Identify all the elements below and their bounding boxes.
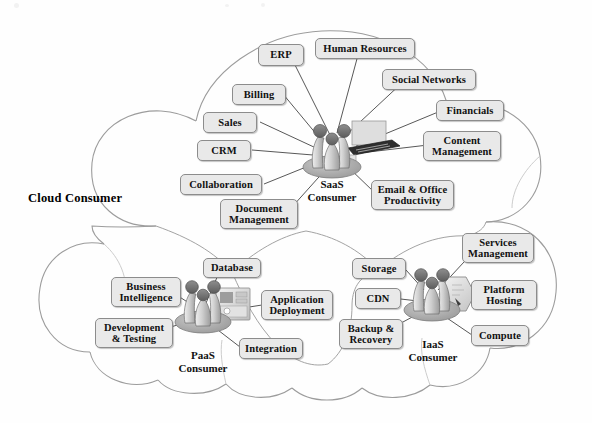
iaas-people-icon [404, 269, 475, 321]
node-crm[interactable]: CRM [197, 140, 251, 161]
node-compute[interactable]: Compute [471, 325, 529, 346]
node-database[interactable]: Database [203, 258, 261, 278]
node-application-deployment[interactable]: Application Deployment [261, 290, 333, 320]
node-email-office-productivity[interactable]: Email & Office Productivity [371, 180, 454, 210]
node-erp[interactable]: ERP [258, 44, 304, 66]
node-business-intelligence[interactable]: Business Intelligence [111, 277, 181, 307]
node-financials[interactable]: Financials [436, 100, 504, 121]
node-storage[interactable]: Storage [352, 258, 406, 279]
node-collaboration[interactable]: Collaboration [180, 174, 262, 195]
node-cdn[interactable]: CDN [355, 288, 401, 309]
iaas-consumer-label: IaaS Consumer [398, 338, 468, 363]
node-document-management[interactable]: Document Management [220, 199, 298, 229]
node-content-management[interactable]: Content Management [423, 131, 501, 161]
node-platform-hosting[interactable]: Platform Hosting [471, 280, 537, 310]
paas-consumer-label: PaaS Consumer [168, 349, 238, 374]
paas-people-icon [175, 281, 250, 333]
node-social-networks[interactable]: Social Networks [382, 69, 476, 90]
node-backup-recovery[interactable]: Backup & Recovery [339, 319, 403, 349]
node-sales[interactable]: Sales [203, 112, 257, 133]
saas-consumer-label: SaaS Consumer [297, 178, 367, 203]
node-human-resources[interactable]: Human Resources [315, 38, 415, 59]
cloud-consumer-title: Cloud Consumer [28, 191, 122, 206]
node-services-management[interactable]: Services Management [462, 233, 534, 263]
node-development-testing[interactable]: Development & Testing [95, 318, 173, 348]
node-billing[interactable]: Billing [232, 84, 286, 105]
node-integration[interactable]: Integration [239, 338, 303, 359]
diagram-canvas: Cloud Consumer ERP Human Resources Socia… [0, 0, 592, 423]
